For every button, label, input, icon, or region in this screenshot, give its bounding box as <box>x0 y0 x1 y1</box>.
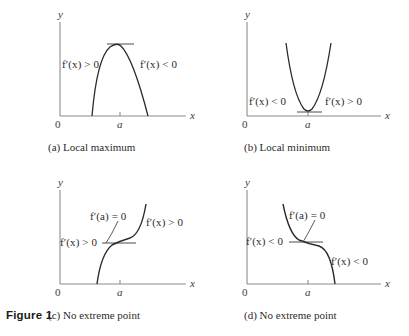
x-tick-label-a: a <box>305 118 311 130</box>
y-axis-label: y <box>58 8 63 20</box>
panel-caption: (d) No extreme point <box>244 309 337 321</box>
left-derivative-label: f′(x) > 0 <box>60 236 97 248</box>
right-derivative-label: f′(x) > 0 <box>325 95 362 107</box>
x-tick-label-a: a <box>117 286 123 298</box>
x-axis-label: x <box>385 109 390 121</box>
origin-label: 0 <box>55 286 61 298</box>
panel-local-maximum: y x 0 a f′(x) > 0 f′(x) < 0 (a) Local ma… <box>0 0 204 168</box>
panel-caption: (b) Local minimum <box>244 141 330 153</box>
curve-downward-parabola <box>92 44 148 116</box>
y-axis-label: y <box>245 8 250 20</box>
panel-caption: (c) No extreme point <box>48 309 140 321</box>
panel-no-extreme-point-decreasing: y x 0 a f′(a) = 0 f′(x) < 0 f′(x) < 0 (d… <box>205 168 409 336</box>
x-axis-label: x <box>190 277 195 289</box>
x-tick-label-a: a <box>117 118 123 130</box>
critical-point-label: f′(a) = 0 <box>289 209 325 221</box>
origin-label: 0 <box>242 118 248 130</box>
panel-caption: (a) Local maximum <box>48 141 135 153</box>
x-axis-label: x <box>385 277 390 289</box>
left-derivative-label: f′(x) < 0 <box>249 95 286 107</box>
figure-container: y x 0 a f′(x) > 0 f′(x) < 0 (a) Local ma… <box>0 0 409 336</box>
x-axis-label: x <box>190 109 195 121</box>
origin-label: 0 <box>55 118 61 130</box>
x-tick-label-a: a <box>305 286 311 298</box>
right-derivative-label: f′(x) < 0 <box>331 255 368 267</box>
right-derivative-label: f′(x) > 0 <box>146 216 183 228</box>
leader-line-critical-point <box>106 221 118 243</box>
left-derivative-label: f′(x) < 0 <box>246 235 283 247</box>
left-derivative-label: f′(x) > 0 <box>62 58 99 70</box>
origin-label: 0 <box>242 286 248 298</box>
panel-local-minimum: y x 0 a f′(x) < 0 f′(x) > 0 (b) Local mi… <box>205 0 409 168</box>
leader-line-critical-point <box>303 220 315 242</box>
critical-point-label: f′(a) = 0 <box>90 210 126 222</box>
y-axis-label: y <box>58 176 63 188</box>
right-derivative-label: f′(x) < 0 <box>140 58 177 70</box>
y-axis-label: y <box>245 176 250 188</box>
figure-number-label: Figure 1 <box>6 309 52 321</box>
